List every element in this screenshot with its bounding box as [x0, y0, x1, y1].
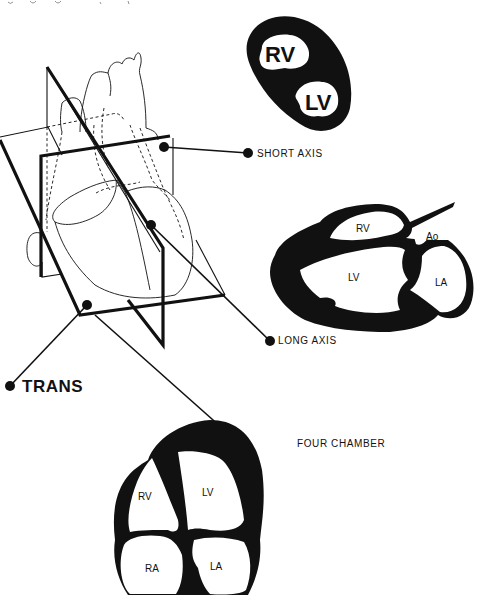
trans-label: TRANS	[22, 377, 83, 396]
heart-outline	[53, 180, 117, 224]
ra-label: RA	[145, 563, 159, 574]
clipped-caption	[8, 1, 129, 4]
rv-label: RV	[356, 223, 370, 234]
short-axis-view: RV LV	[247, 16, 352, 131]
long-axis-label: LONG AXIS	[278, 335, 337, 346]
la-label: LA	[210, 561, 223, 572]
rv-label: RV	[138, 491, 152, 502]
great-vessels	[80, 53, 158, 140]
ao-label: Ao	[426, 231, 439, 242]
lv-label: LV	[305, 90, 332, 115]
lv-label: LV	[348, 272, 360, 283]
transverse-plane-outline	[0, 127, 62, 155]
cardiac-planes-diagram: SHORT AXIS LONG AXIS TRANS FOUR CHAMBER …	[0, 0, 477, 595]
four-chamber-label: FOUR CHAMBER	[297, 438, 385, 449]
long-axis-marker-dot	[146, 220, 156, 230]
four-chamber-view: RV LV RA LA	[114, 420, 264, 595]
short-axis-label: SHORT AXIS	[257, 148, 323, 159]
long-axis-view: RV LV Ao LA	[270, 202, 473, 332]
trans-marker-dot	[82, 300, 92, 310]
lv-label: LV	[202, 487, 214, 498]
la-label: LA	[435, 277, 448, 288]
rv-label: RV	[265, 42, 295, 67]
short-axis-marker-dot	[159, 142, 169, 152]
heart-3d-illustration	[0, 53, 225, 345]
